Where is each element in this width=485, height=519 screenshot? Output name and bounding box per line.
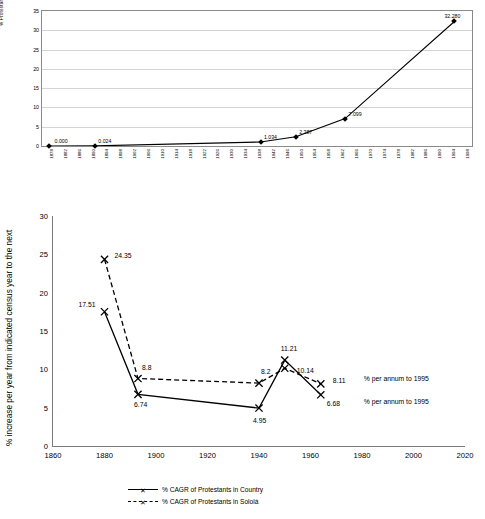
chart1-x-tick: 1898 [118,149,123,159]
chart2-point-label: 10.14 [297,367,314,374]
chart1-x-tick: 1982 [410,149,415,159]
chart2-y-tick: 20 [40,288,48,297]
chart2-y-tick: 10 [40,365,48,374]
chart1-x-tick: 1890 [91,149,96,159]
chart2-y-axis-label: % increase per year from indicated censu… [4,230,14,446]
chart1-point-label: 7.099 [349,111,362,117]
chart1-x-tick: 1946 [285,149,290,159]
legend-swatch-dashed: ✕ [128,501,158,502]
chart2-point-label: 8.11 [333,377,346,384]
chart2-x-tick: 1980 [354,451,371,460]
chart1-point-label: 1.034 [264,134,277,140]
chart2-x-tick: 1880 [96,451,113,460]
chart1-x-tick: 1878 [49,149,54,159]
chart1-x-tick: 1950 [299,149,304,159]
chart2-x-tick: 2020 [457,451,474,460]
chart1-point-label: 2.387 [299,129,312,135]
chart2-plot-area: 17.516.744.9511.216.6824.358.88.210.148.… [52,216,465,447]
figure-page: % Protestant 0.0000.0241.0342.3877.09932… [0,0,485,519]
legend-swatch-solid: ✕ [128,489,158,490]
chart1-point-label: 0.000 [55,138,68,144]
chart2-annotation-0: % per annum to 1995 [364,375,429,382]
chart1-x-tick: 1978 [396,149,401,159]
chart2-y-tick: 0 [44,442,48,451]
chart2-point-label: 17.51 [79,301,96,308]
chart1-x-tick: 1986 [423,149,428,159]
chart1-x-tick: 1966 [354,149,359,159]
chart1-point-label: 32.280 [444,13,460,19]
chart-cagr-protestants: % increase per year from indicated censu… [0,196,485,519]
chart2-point-label: 8.8 [142,364,151,371]
chart1-x-tick: 1974 [382,149,387,159]
chart2-x-tick: 1900 [148,451,165,460]
chart1-x-tick: 1958 [326,149,331,159]
chart1-x-tick: 1914 [174,149,179,159]
chart2-point-label: 24.35 [115,252,132,259]
chart2-point-label: 4.95 [253,417,266,424]
chart2-x-tick: 2000 [405,451,422,460]
chart2-series-lines [53,216,465,446]
chart1-y-tick: 35 [33,8,39,14]
chart2-y-tick: 30 [40,212,48,221]
chart1-point-label: 0.024 [98,138,111,144]
chart1-y-tick: 15 [33,85,39,91]
chart1-x-tick: 1998 [465,149,470,159]
chart2-point-label: 8.2 [261,368,270,375]
chart1-y-tick: 0 [36,143,39,149]
chart2-x-tick: 1920 [199,451,216,460]
chart1-x-tick: 1926 [215,149,220,159]
legend-item-country: ✕ % CAGR of Protestants in Country [128,484,263,495]
chart2-annotation-1: % per annum to 1995 [364,398,429,405]
chart1-x-tick: 1970 [368,149,373,159]
chart1-x-tick: 1994 [451,149,456,159]
chart1-y-tick: 20 [33,66,39,72]
chart2-x-tick: 1940 [251,451,268,460]
legend-label-country: % CAGR of Protestants in Country [162,484,263,495]
chart1-x-tick: 1938 [257,149,262,159]
chart1-x-tick: 1942 [271,149,276,159]
legend-item-solola: ✕ % CAGR of Protestants in Sololá [128,496,263,507]
chart1-plot-area: 0.0000.0241.0342.3877.09932.280 05101520… [41,10,473,147]
chart1-y-tick: 25 [33,47,39,53]
chart2-y-tick: 5 [44,403,48,412]
chart1-x-tick: 1930 [229,149,234,159]
chart1-y-tick: 10 [33,104,39,110]
chart2-y-tick: 15 [40,327,48,336]
chart1-x-tick: 1922 [202,149,207,159]
chart1-x-tick: 1902 [132,149,137,159]
chart1-x-tick: 1918 [188,149,193,159]
chart1-y-axis-label: % Protestant [0,0,4,26]
chart2-point-label: 6.68 [327,400,340,407]
chart1-x-tick: 1910 [160,149,165,159]
chart2-x-tick: 1960 [302,451,319,460]
chart1-x-tick: 1894 [104,149,109,159]
chart1-y-tick: 5 [36,124,39,130]
chart2-point-label: 11.21 [281,345,298,352]
legend-label-solola: % CAGR of Protestants in Sololá [162,496,258,507]
chart1-x-tick: 1990 [437,149,442,159]
chart1-series-line [42,11,472,146]
chart2-point-label: 6.74 [134,401,147,408]
chart-protestant-percentage: % Protestant 0.0000.0241.0342.3877.09932… [0,0,485,190]
chart1-x-tick: 1886 [77,149,82,159]
chart1-x-tick: 1954 [312,149,317,159]
chart1-x-tick: 1906 [146,149,151,159]
chart1-y-tick: 30 [33,27,39,33]
chart1-x-tick: 1934 [243,149,248,159]
chart1-x-tick: 1962 [340,149,345,159]
chart2-x-tick: 1860 [45,451,62,460]
chart1-x-tick: 1882 [63,149,68,159]
chart2-legend: ✕ % CAGR of Protestants in Country ✕ % C… [128,484,263,508]
chart2-y-tick: 25 [40,250,48,259]
